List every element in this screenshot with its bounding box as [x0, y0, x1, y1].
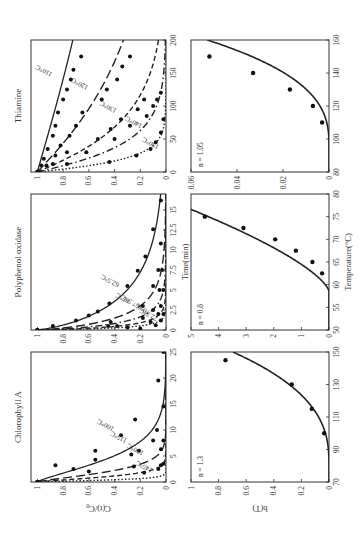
x-tick-label: 120 — [332, 100, 341, 112]
y-axis-label: b(T) — [252, 504, 267, 514]
y-tick-label: 0.6 — [84, 176, 93, 186]
panel-title: Chlorophyll A — [13, 391, 23, 443]
y-tick-label: 0.2 — [136, 176, 145, 186]
data-point — [142, 97, 146, 101]
data-point — [51, 134, 55, 138]
y-tick-label: 0.6 — [84, 334, 93, 344]
data-point — [151, 227, 155, 231]
data-point — [155, 428, 159, 432]
y-tick-label: 0.8 — [59, 486, 68, 496]
x-tick-label: 140 — [332, 67, 341, 79]
data-point — [310, 407, 314, 411]
y-tick-label: 0.2 — [297, 486, 306, 496]
data-point — [61, 97, 65, 101]
data-point — [134, 154, 138, 158]
x-tick-label: 110 — [332, 411, 341, 422]
x-tick-label: 5 — [169, 454, 178, 458]
data-point — [74, 318, 78, 322]
x-tick-label: 90 — [332, 446, 341, 454]
y-tick-label: 0.2 — [136, 334, 145, 344]
y-tick-label: 0.6 — [84, 486, 93, 496]
data-point — [151, 104, 155, 108]
series-label: 145°C — [134, 459, 154, 475]
data-point — [35, 328, 39, 332]
y-tick-label: 0.8 — [59, 334, 68, 344]
y-tick-label: 4 — [214, 334, 223, 338]
series-label: 150°C — [141, 135, 161, 151]
plot-frame — [191, 352, 329, 482]
y-tick-label: 5 — [187, 334, 196, 338]
data-point — [161, 405, 165, 409]
x-tick-label: 0 — [169, 328, 178, 332]
y-tick-label: 0 — [162, 334, 171, 338]
data-point — [120, 64, 124, 68]
x-axis-label: Temperature(°C) — [343, 233, 353, 291]
panel-thiamine: 05010015020000.20.40.60.81Thiamine110°C1… — [13, 34, 178, 185]
data-point — [158, 288, 162, 292]
x-tick-label: 2.5 — [169, 305, 178, 315]
data-point — [59, 144, 63, 148]
data-point — [93, 458, 97, 462]
y-axis-label: C(t)/C0 — [86, 503, 111, 514]
data-point — [161, 350, 165, 354]
fit-curve — [152, 194, 329, 330]
y-tick-label: 2 — [269, 334, 278, 338]
x-tick-label: 50 — [169, 135, 178, 143]
data-point — [107, 302, 111, 306]
data-point — [290, 382, 294, 386]
data-point — [71, 68, 75, 72]
x-tick-label: 100 — [332, 133, 341, 145]
series-label: 130°C — [98, 99, 118, 115]
x-tick-label: 70 — [332, 478, 341, 486]
y-tick-label: 0.2 — [136, 486, 145, 496]
data-point — [113, 137, 117, 141]
data-point — [51, 324, 55, 328]
data-point — [320, 120, 324, 124]
data-point — [207, 54, 211, 58]
y-tick-label: 0.4 — [110, 334, 119, 344]
y-tick-label: 1 — [187, 486, 196, 490]
series-label: 120°C — [70, 76, 90, 92]
data-point — [320, 271, 324, 275]
y-tick-label: 0 — [162, 176, 171, 180]
data-point — [53, 154, 57, 158]
series-label: 130°C — [125, 441, 145, 457]
panel-bT_chlorophyll: 709011013015000.20.40.60.81b(T)n = 1.3 — [187, 346, 342, 514]
data-point — [156, 379, 160, 383]
x-axis-label: Time(min) — [180, 244, 190, 281]
data-point — [115, 78, 119, 82]
data-point — [151, 438, 155, 442]
data-point — [273, 237, 277, 241]
data-point — [223, 358, 227, 362]
data-point — [119, 117, 123, 121]
data-point — [68, 134, 72, 138]
x-tick-label: 12.5 — [169, 223, 178, 236]
series-label: 115°C — [109, 429, 129, 445]
y-tick-label: 0.8 — [214, 486, 223, 496]
n-annotation: n = 1.05 — [196, 142, 205, 167]
n-annotation: n = 1.3 — [196, 456, 205, 477]
y-tick-label: 0.8 — [59, 176, 68, 186]
data-point — [203, 214, 207, 218]
data-point — [161, 438, 165, 442]
chart-svg: 051015202500.20.40.60.81Chlorophyll AC(t… — [0, 0, 360, 534]
data-point — [161, 462, 165, 466]
data-point — [53, 463, 57, 467]
y-tick-label: 0.06 — [187, 176, 196, 189]
series-label: 110°C — [34, 63, 54, 79]
data-point — [109, 127, 113, 131]
data-point — [125, 284, 129, 288]
data-point — [46, 147, 50, 151]
y-tick-label: 1 — [33, 176, 42, 180]
data-point — [35, 480, 39, 484]
x-tick-label: 10 — [169, 426, 178, 434]
y-tick-label: 1 — [297, 334, 306, 338]
x-tick-label: 75 — [332, 213, 341, 221]
data-point — [128, 55, 132, 59]
data-point — [35, 170, 39, 174]
data-point — [322, 431, 326, 435]
data-point — [159, 242, 163, 246]
data-point — [96, 310, 100, 314]
x-tick-label: 25 — [169, 348, 178, 356]
data-point — [65, 162, 69, 166]
